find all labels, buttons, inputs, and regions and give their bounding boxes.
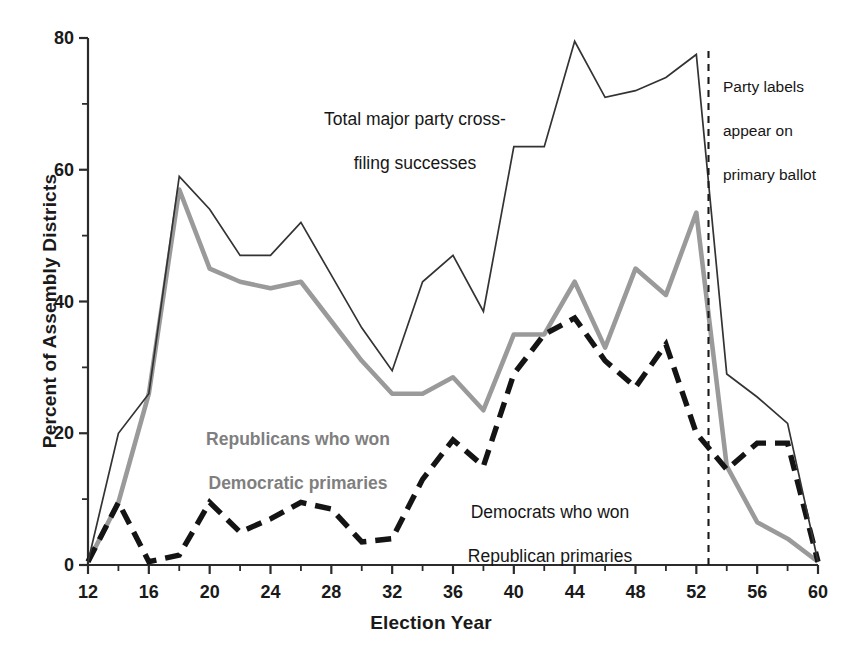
annotation-republicans-line1: Republicans who won bbox=[168, 428, 428, 450]
annotation-party-line2: appear on bbox=[723, 120, 858, 142]
y-tick-label: 60 bbox=[22, 159, 74, 180]
annotation-party-line1: Party labels bbox=[723, 76, 858, 98]
y-tick-label: 80 bbox=[22, 28, 74, 49]
x-tick-label: 12 bbox=[78, 582, 98, 603]
annotation-total-line2: filing successes bbox=[290, 152, 540, 174]
annotation-democrats-series: Democrats who won Republican primaries bbox=[437, 479, 663, 589]
annotation-party-line3: primary ballot bbox=[723, 164, 858, 186]
y-tick-label: 0 bbox=[22, 555, 74, 576]
chart-figure: Percent of Assembly Districts Election Y… bbox=[0, 0, 862, 667]
annotation-democrats-line2: Republican primaries bbox=[437, 545, 663, 567]
annotation-party-labels-event: Party labels appear on primary ballot bbox=[723, 54, 858, 208]
annotation-republicans-series: Republicans who won Democratic primaries bbox=[168, 406, 428, 516]
x-tick-label: 32 bbox=[382, 582, 402, 603]
x-tick-label: 56 bbox=[747, 582, 767, 603]
x-tick-label: 16 bbox=[139, 582, 159, 603]
annotation-republicans-line2: Democratic primaries bbox=[168, 472, 428, 494]
x-tick-label: 60 bbox=[808, 582, 828, 603]
x-tick-label: 52 bbox=[686, 582, 706, 603]
x-axis-title: Election Year bbox=[0, 612, 862, 634]
x-tick-label: 28 bbox=[321, 582, 341, 603]
y-tick-label: 40 bbox=[22, 291, 74, 312]
annotation-total-line1: Total major party cross- bbox=[290, 108, 540, 130]
x-tick-label: 20 bbox=[200, 582, 220, 603]
y-tick-label: 20 bbox=[22, 423, 74, 444]
annotation-democrats-line1: Democrats who won bbox=[437, 501, 663, 523]
annotation-total-series: Total major party cross- filing successe… bbox=[290, 86, 540, 196]
x-tick-label: 24 bbox=[260, 582, 280, 603]
